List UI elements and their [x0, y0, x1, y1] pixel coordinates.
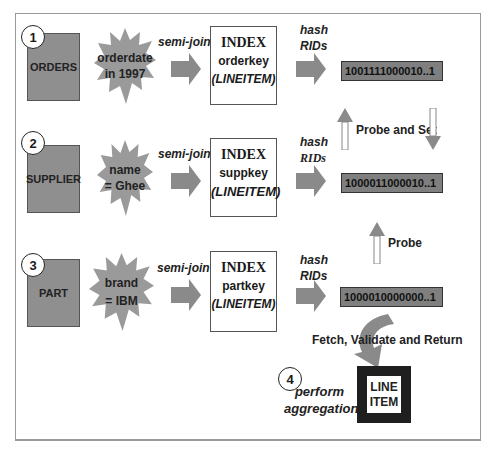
up-arrow-icon [337, 108, 353, 150]
bitmap-2: 1000011000010..1 [341, 173, 443, 193]
index-table: (LINEITEM) [211, 297, 276, 311]
index-partkey: INDEX partkey (LINEITEM) [210, 251, 277, 332]
semi-join-label: semi-join [158, 35, 211, 49]
step-2-marker: 2 [21, 131, 45, 155]
predicate-line1: orderdate [97, 50, 152, 66]
index-title: INDEX [211, 35, 276, 51]
down-arrow-icon [425, 108, 441, 150]
index-title: INDEX [211, 260, 276, 276]
predicate-line2: = IBM [105, 292, 137, 310]
right-arrow-icon [171, 165, 201, 197]
right-arrow-icon [296, 165, 326, 197]
index-key: suppkey [211, 166, 276, 180]
hash-rids-label-1: hashRIDs [300, 22, 328, 54]
predicate-line1: name [109, 162, 140, 178]
lineitem-table: LINEITEM [357, 366, 411, 423]
predicate-star-2: name= Ghee [97, 140, 153, 216]
lineitem-line1: LINE [370, 380, 397, 395]
right-arrow-icon [171, 279, 201, 311]
right-arrow-icon [296, 53, 326, 85]
up-arrow-icon [369, 222, 385, 264]
hash-rids-label-2: hashRIDs [300, 134, 328, 166]
predicate-line1: brand [105, 274, 138, 292]
right-arrow-icon [171, 53, 201, 85]
predicate-star-1: orderdatein 1997 [94, 28, 156, 104]
index-key: partkey [211, 279, 276, 293]
right-arrow-icon [296, 280, 326, 312]
step-3-marker: 3 [21, 253, 45, 277]
lineitem-line2: ITEM [370, 395, 399, 410]
bitmap-3: 1000010000000..1 [340, 287, 443, 307]
predicate-star-3: brand= IBM [89, 253, 154, 331]
table-supplier: SUPPLIER [27, 145, 80, 213]
hash-text: hash [300, 252, 328, 268]
semi-join-label: semi-join [157, 261, 210, 275]
semi-join-label: semi-join [158, 147, 211, 161]
index-orderkey: INDEX orderkey (LINEITEM) [210, 26, 277, 105]
action-line2: aggregation [284, 400, 350, 417]
probe-label: Probe [388, 236, 422, 250]
rids-text: RIDs [300, 38, 328, 54]
index-table: (LINEITEM) [211, 72, 276, 86]
index-title: INDEX [211, 147, 276, 163]
predicate-line2: in 1997 [105, 66, 146, 82]
hash-text: hash [300, 134, 328, 150]
index-suppkey: INDEX suppkey (LINEITEM) [210, 138, 277, 217]
hash-text: hash [300, 22, 328, 38]
index-table: (LINEITEM) [211, 184, 276, 199]
rids-text: RIDs [300, 150, 328, 166]
predicate-line2: = Ghee [105, 178, 145, 194]
bitmap-1: 1001111000010..1 [341, 61, 443, 81]
fetch-validate-return-label: Fetch, Validate and Return [312, 333, 463, 347]
step-1-marker: 1 [21, 25, 45, 49]
index-key: orderkey [211, 54, 276, 68]
step-4-marker: 4 [278, 367, 302, 391]
